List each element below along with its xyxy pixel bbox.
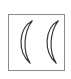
double-paren-icon xyxy=(9,15,64,70)
glyph-tile: (( xyxy=(8,14,65,71)
right-crescent xyxy=(47,21,58,63)
left-crescent xyxy=(21,21,32,63)
